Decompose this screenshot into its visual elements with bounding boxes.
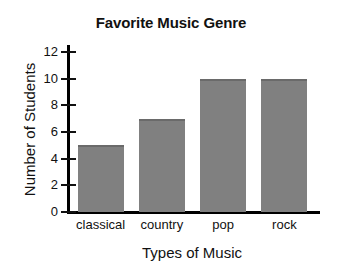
y-tick-mark	[61, 184, 76, 186]
y-tick-label: 10	[28, 72, 58, 85]
y-tick-label: 8	[28, 98, 58, 111]
bar-rock	[261, 79, 307, 212]
bar-country	[139, 119, 185, 212]
bar-pop	[200, 79, 246, 212]
y-tick-label: 4	[28, 152, 58, 165]
y-tick-mark	[61, 211, 76, 213]
y-tick-label: 6	[28, 125, 58, 138]
y-tick-mark	[61, 51, 76, 53]
bar-chart-figure: Favorite Music Genre Number of Students …	[0, 0, 342, 272]
x-tick-label-pop: pop	[193, 217, 254, 232]
bar-classical	[78, 145, 124, 212]
y-tick-mark	[61, 78, 76, 80]
x-tick-label-rock: rock	[254, 217, 315, 232]
y-tick-mark	[61, 131, 76, 133]
y-tick-label: 12	[28, 45, 58, 58]
x-axis-title: Types of Music	[67, 244, 317, 261]
chart-title: Favorite Music Genre	[0, 14, 342, 31]
y-axis-line	[67, 45, 70, 213]
y-tick-mark	[61, 158, 76, 160]
y-tick-label: 0	[28, 205, 58, 218]
y-tick-label: 2	[28, 178, 58, 191]
x-tick-label-classical: classical	[70, 217, 131, 232]
x-tick-label-country: country	[131, 217, 192, 232]
y-tick-mark	[61, 104, 76, 106]
